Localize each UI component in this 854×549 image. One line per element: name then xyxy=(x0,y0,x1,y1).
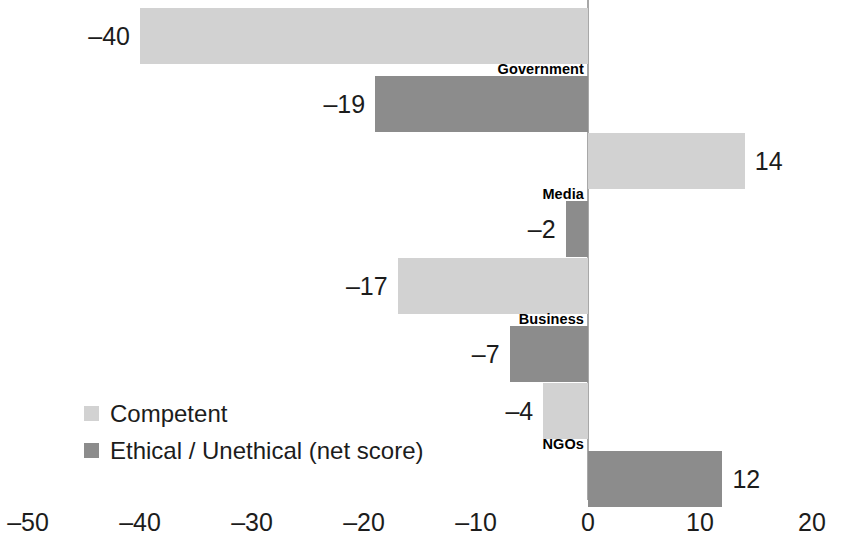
category-label-government: Government xyxy=(384,61,584,77)
legend-item-ethical: Ethical / Unethical (net score) xyxy=(84,432,424,469)
x-axis: –50–40–30–20–1001020 xyxy=(0,500,854,549)
x-tick-label-neg30: –30 xyxy=(231,508,273,537)
category-label-media: Media xyxy=(384,186,584,202)
category-label-business: Business xyxy=(384,311,584,327)
legend-swatch-competent-icon xyxy=(84,406,99,421)
x-tick-label-neg10: –10 xyxy=(455,508,497,537)
chart-legend: Competent Ethical / Unethical (net score… xyxy=(84,395,424,469)
x-tick-label-neg50: –50 xyxy=(7,508,49,537)
legend-label-competent: Competent xyxy=(110,400,227,428)
bar-value-label-business-competent: –17 xyxy=(332,258,388,314)
legend-label-ethical: Ethical / Unethical (net score) xyxy=(110,437,423,465)
legend-item-competent: Competent xyxy=(84,395,424,432)
bar-value-label-ngos-ethical: 12 xyxy=(732,451,788,507)
bar-government-competent xyxy=(140,8,588,64)
x-tick-label-0: 0 xyxy=(581,508,595,537)
bar-ngos-ethical xyxy=(588,451,722,507)
bar-business-competent xyxy=(398,258,588,314)
legend-swatch-ethical-icon xyxy=(84,443,99,458)
bar-media-ethical xyxy=(566,201,588,257)
bar-media-competent xyxy=(588,133,745,189)
bar-chart: –40–19Government14–2Media–17–7Business–4… xyxy=(0,0,854,549)
x-tick-label-20: 20 xyxy=(798,508,826,537)
x-tick-label-10: 10 xyxy=(686,508,714,537)
bar-value-label-media-ethical: –2 xyxy=(500,201,556,257)
bar-business-ethical xyxy=(510,326,588,382)
x-tick-label-neg20: –20 xyxy=(343,508,385,537)
bar-value-label-ngos-competent: –4 xyxy=(477,383,533,439)
x-tick-label-neg40: –40 xyxy=(119,508,161,537)
bar-ngos-competent xyxy=(543,383,588,439)
bar-value-label-government-competent: –40 xyxy=(74,8,130,64)
bar-government-ethical xyxy=(375,76,588,132)
bar-value-label-government-ethical: –19 xyxy=(309,76,365,132)
bar-value-label-media-competent: 14 xyxy=(755,133,811,189)
bar-value-label-business-ethical: –7 xyxy=(444,326,500,382)
